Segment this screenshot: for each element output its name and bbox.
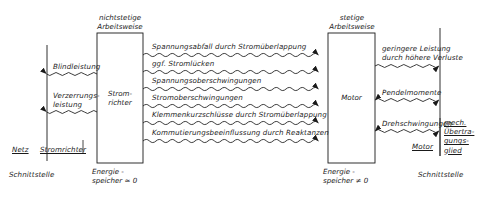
flow-arrow-drehschwingungen (375, 130, 439, 133)
right-interface-caption: Schnittstelle (418, 171, 463, 180)
flow-arrow-blindleistung (47, 73, 97, 76)
left-interface-left-label: Netz (12, 146, 29, 155)
flow-arrow-stromluecken (143, 70, 319, 73)
flow-label-verzerrungsleistung: Verzerrungs- leistung (53, 92, 100, 109)
flow-label-kommutierung: Kommutierungsbeeinflussung durch Reaktan… (152, 129, 329, 138)
flow-arrow-pendelmomente (375, 99, 439, 102)
flow-arrow-verzerrungsleistung (47, 111, 97, 114)
right-interface-right-label: mech. Übertra- gungs- glied (444, 118, 474, 155)
converter-top-caption: nichtstetige Arbeitsweise (81, 14, 159, 31)
left-interface-right-label: Stromrichter (40, 146, 86, 155)
flow-label-blindleistung: Blindleistung (53, 63, 100, 72)
diagram-canvas: nichtstetige Arbeitsweise stetige Arbeit… (0, 0, 491, 202)
flow-label-stromoberschwingungen: Stromoberschwingungen (152, 94, 243, 103)
flow-label-stromluecken: ggf. Stromlücken (152, 60, 214, 69)
flow-arrow-spannungsoberschwingungen (143, 87, 319, 90)
motor-box-label: Motor (328, 94, 375, 103)
flow-arrow-klemmenkurzschluesse (143, 121, 319, 124)
converter-box-label: Strom- richter (97, 90, 143, 107)
flow-label-spannungsabfall: Spannungsabfall durch Stromüberlappung (152, 43, 306, 52)
flow-label-pendelmomente: Pendelmomente (382, 89, 441, 98)
flow-label-drehschwingungen: Drehschwingungen (382, 120, 452, 129)
motor-bottom-caption: Energie - speicher ≠ 0 (323, 168, 399, 185)
flow-arrow-spannungsabfall (143, 53, 319, 56)
flow-arrow-kommutierung (143, 139, 319, 142)
converter-bottom-caption: Energie - speicher ≈ 0 (92, 168, 164, 185)
motor-top-caption: stetige Arbeitsweise (313, 14, 391, 31)
flow-arrow-stromoberschwingungen (143, 104, 319, 107)
flow-arrow-geringere-leistung (375, 65, 439, 68)
flow-label-klemmenkurzschluesse: Klemmenkurzschlüsse durch Stromüberlappu… (152, 111, 327, 120)
flow-label-spannungsoberschwingungen: Spannungsoberschwingungen (152, 77, 261, 86)
left-interface-caption: Schnittstelle (9, 171, 54, 180)
flow-label-geringere-leistung: geringere Leistung durch höhere Verluste (382, 45, 463, 62)
right-interface-left-label: Motor (412, 143, 433, 152)
